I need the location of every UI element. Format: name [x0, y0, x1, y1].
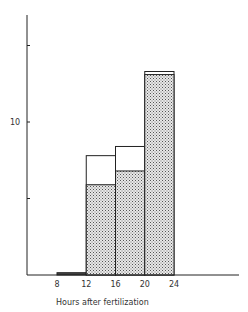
x-tick-label: 24: [169, 280, 179, 289]
bar-stippled-segment: [116, 171, 145, 275]
x-tick-labels: 812162024: [54, 280, 179, 289]
bar-stippled-segment: [145, 75, 174, 275]
x-tick-label: 8: [54, 280, 59, 289]
x-axis-label: Hours after fertilization: [56, 298, 149, 307]
bars-group: [57, 72, 174, 275]
bar-20-24: [145, 72, 174, 275]
y-tick-label-10: 10: [10, 118, 20, 127]
bar-16-20: [116, 146, 145, 275]
histogram-chart: 812162024 10 Hours after fertilization: [0, 0, 248, 312]
x-tick-label: 20: [140, 280, 150, 289]
x-tick-label: 16: [110, 280, 120, 289]
x-tick-label: 12: [81, 280, 91, 289]
bar-12-16: [86, 156, 115, 275]
bar-stippled-segment: [86, 185, 115, 275]
